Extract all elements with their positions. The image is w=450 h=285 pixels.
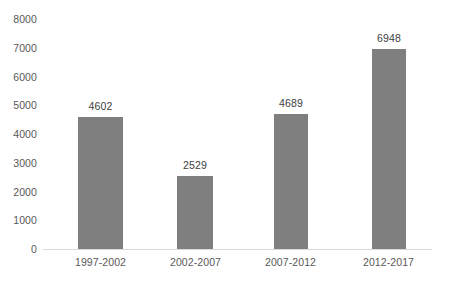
bar-value-label-2012-2017: 6948 — [366, 32, 412, 44]
x-tick-label-2012-2017: 2012-2017 — [340, 256, 437, 268]
bar-1997-2002 — [78, 117, 123, 249]
bar-2012-2017 — [372, 49, 406, 249]
bar-chart: 8000 7000 6000 5000 4000 3000 2000 1000 … — [0, 0, 450, 285]
y-tick-label-3000: 3000 — [13, 158, 37, 169]
plot-area: 4602 2529 4689 6948 1997-2002 2002-2007 … — [43, 0, 432, 285]
bar-value-label-2002-2007: 2529 — [172, 159, 218, 171]
y-tick-label-1000: 1000 — [13, 215, 37, 226]
bar-value-label-1997-2002: 4602 — [78, 100, 123, 112]
y-tick-label-4000: 4000 — [13, 129, 37, 140]
bar-value-label-2007-2012: 4689 — [268, 97, 314, 109]
y-tick-label-0: 0 — [31, 244, 37, 255]
y-tick-label-2000: 2000 — [13, 187, 37, 198]
x-axis-line — [43, 249, 432, 250]
bar-2007-2012 — [274, 114, 308, 249]
y-tick-label-6000: 6000 — [13, 72, 37, 83]
x-tick-label-2002-2007: 2002-2007 — [147, 256, 244, 268]
y-tick-label-8000: 8000 — [13, 14, 37, 25]
x-tick-label-2007-2012: 2007-2012 — [242, 256, 339, 268]
y-tick-label-5000: 5000 — [13, 100, 37, 111]
y-tick-label-7000: 7000 — [13, 43, 37, 54]
x-tick-label-1997-2002: 1997-2002 — [52, 256, 149, 268]
bar-2002-2007 — [177, 176, 213, 249]
y-axis: 8000 7000 6000 5000 4000 3000 2000 1000 … — [0, 0, 43, 285]
